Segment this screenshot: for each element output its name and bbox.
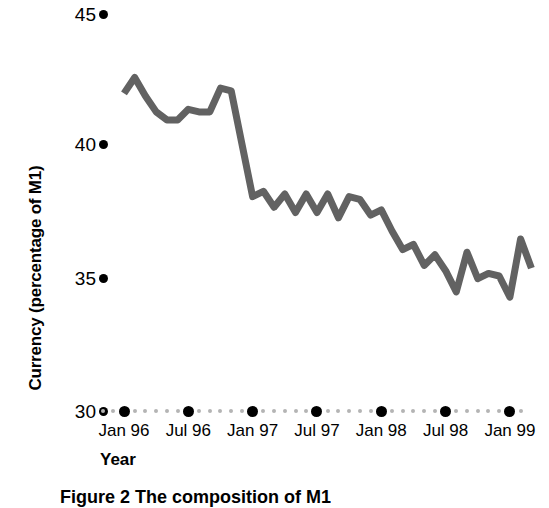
x-tick-label: Jul 96 <box>153 421 223 440</box>
x-axis-major-dot <box>183 406 194 417</box>
x-axis-minor-dot <box>240 409 244 413</box>
x-axis-minor-dot <box>390 409 394 413</box>
x-axis-minor-dot <box>433 409 437 413</box>
x-axis-major-dot <box>119 406 130 417</box>
figure-caption: Figure 2 The composition of M1 <box>60 487 331 508</box>
x-tick-label: Jul 97 <box>282 421 352 440</box>
x-axis-minor-dot <box>176 409 180 413</box>
x-axis-minor-dot <box>294 409 298 413</box>
x-axis-major-dot <box>440 406 451 417</box>
x-tick-label: Jan 96 <box>89 421 159 440</box>
x-axis-minor-dot <box>465 409 469 413</box>
x-tick-label: Jan 99 <box>475 421 545 440</box>
x-axis-major-dot <box>376 406 387 417</box>
x-axis-minor-dot <box>358 409 362 413</box>
x-axis-minor-dot <box>519 409 523 413</box>
x-axis-minor-dot <box>369 409 373 413</box>
x-tick-label: Jan 97 <box>218 421 288 440</box>
x-axis-minor-dot <box>283 409 287 413</box>
x-tick-label: Jan 98 <box>346 421 416 440</box>
x-axis-minor-dot <box>208 409 212 413</box>
x-tick-label: Jul 98 <box>411 421 481 440</box>
x-axis-minor-dot <box>476 409 480 413</box>
x-axis-minor-dot <box>101 409 105 413</box>
x-axis-minor-dot <box>133 409 137 413</box>
x-axis-minor-dot <box>326 409 330 413</box>
x-axis-minor-dot <box>197 409 201 413</box>
x-axis-title: Year <box>100 450 136 470</box>
x-axis-major-dot <box>311 406 322 417</box>
x-axis-major-dot <box>247 406 258 417</box>
x-axis-major-dot <box>504 406 515 417</box>
x-axis-minor-dot <box>165 409 169 413</box>
currency-share-line <box>124 78 531 298</box>
x-axis-minor-dot <box>401 409 405 413</box>
